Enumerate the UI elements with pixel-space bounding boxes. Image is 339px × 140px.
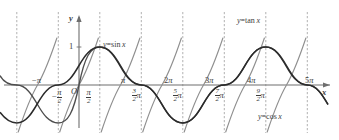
- tick-label-2pi: 2π: [164, 76, 173, 85]
- fraction-5-2: 52: [173, 88, 178, 103]
- pi-glyph: π: [251, 75, 255, 85]
- tick-label-pi-over-2: π2: [86, 88, 91, 105]
- curve-label-cos: y=cos x: [258, 113, 282, 121]
- pi-glyph: π: [178, 90, 182, 100]
- pi-glyph: π: [309, 75, 313, 85]
- tick-label-pi: π: [121, 76, 125, 85]
- fraction-9-2: 92: [256, 88, 261, 103]
- cos-label-fn: cos: [266, 112, 277, 121]
- pi-glyph: π: [137, 90, 141, 100]
- tick-label-neg-pi: −π: [32, 76, 41, 85]
- tick-label-4pi: 4π: [247, 76, 256, 85]
- fraction-pi-2: π2: [57, 88, 62, 105]
- y-axis-label: y: [69, 14, 73, 23]
- curve-label-sin: y=sin x: [103, 41, 126, 49]
- sin-label-arg: x: [122, 40, 126, 49]
- tick-label-5pi-over-2: 52π: [173, 88, 182, 103]
- fraction-7-2: 72: [215, 88, 220, 103]
- tick-label-7pi-over-2: 72π: [215, 88, 224, 103]
- pi-glyph: π: [220, 90, 224, 100]
- fraction-pi-2: π2: [86, 88, 91, 105]
- pi-glyph: π: [168, 75, 172, 85]
- tick-label-3pi: 3π: [205, 76, 214, 85]
- y-axis: [76, 15, 81, 128]
- pi-glyph: π: [261, 90, 265, 100]
- cos-label-arg: x: [278, 112, 282, 121]
- tan-label-fn: tan: [245, 16, 255, 25]
- pi-glyph: π: [209, 75, 213, 85]
- sin-label-fn: sin: [111, 40, 120, 49]
- trig-functions-figure: y x O 1 −π −π2 π2 π 32π 2π 52π 3π 72π 4π: [0, 0, 339, 140]
- plot-canvas: [0, 0, 339, 140]
- pi-glyph: π: [121, 75, 125, 85]
- tick-label-5pi: 5π: [305, 76, 314, 85]
- tick-label-3pi-over-2: 32π: [132, 88, 141, 103]
- tick-label-9pi-over-2: 92π: [256, 88, 265, 103]
- tick-label-neg-pi-over-2: −π2: [52, 88, 62, 105]
- origin-label: O: [71, 87, 77, 96]
- curve-label-tan: y=tan x: [237, 17, 260, 25]
- tan-label-arg: x: [256, 16, 260, 25]
- y-unit-label: 1: [69, 42, 73, 51]
- fraction-3-2: 32: [132, 88, 137, 103]
- pi-glyph: π: [37, 75, 41, 85]
- x-axis-label: x: [322, 88, 326, 97]
